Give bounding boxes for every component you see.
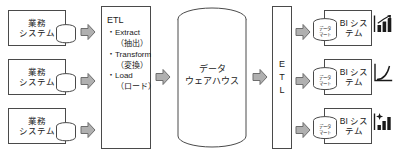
data-warehouse-label: データ ウェアハウス xyxy=(176,64,248,87)
bar-chart-trend-icon xyxy=(373,14,393,34)
source-database-cylinder-2 xyxy=(55,73,77,93)
data-mart-cylinder-3: データ マート xyxy=(312,116,338,140)
source-system-label-3-line1: 業務 xyxy=(19,116,55,126)
source-system-label-1-line2: システム xyxy=(19,28,55,38)
data-mart-cylinder-2: データ マート xyxy=(312,67,338,91)
source-system-label-2-line1: 業務 xyxy=(19,67,55,77)
arrow-etl2-to-mart-3 xyxy=(295,121,311,139)
etl-secondary-letter-3: L xyxy=(279,84,284,97)
arrow-etl2-to-mart-1 xyxy=(295,23,311,41)
line-chart-icon xyxy=(373,63,393,83)
arrow-etl2-to-mart-2 xyxy=(295,72,311,90)
etl-step-1-ja: （抽出） xyxy=(107,39,150,50)
arrow-source-3-to-etl xyxy=(80,121,96,139)
data-mart-cylinder-1: データ マート xyxy=(312,18,338,42)
source-database-cylinder-3 xyxy=(55,122,77,142)
data-warehouse-label-line2: ウェアハウス xyxy=(185,76,239,86)
etl-step-3-ja: （ロード） xyxy=(107,82,150,93)
etl-step-1-en: ・Extract xyxy=(107,28,150,39)
source-system-label-2-line2: システム xyxy=(19,77,55,87)
data-warehouse-label-line1: データ xyxy=(199,64,226,74)
etl-step-2-ja: （変換） xyxy=(107,61,150,72)
bi-system-label-3-line1: BI xyxy=(340,116,348,126)
arrow-source-1-to-etl xyxy=(80,23,96,41)
etl-secondary-letter-2: T xyxy=(279,71,285,84)
bar-chart-star-icon xyxy=(373,112,393,132)
source-database-cylinder-1 xyxy=(55,24,77,44)
etl-title: ETL xyxy=(107,14,150,26)
bi-system-label-2-line2: システム xyxy=(345,67,368,87)
source-system-label-3-line2: システム xyxy=(19,126,55,136)
etl-step-2-en: ・Transform xyxy=(107,50,150,61)
arrow-etl-to-warehouse xyxy=(155,68,171,86)
bi-system-label-1-line1: BI xyxy=(340,18,348,28)
arrow-warehouse-to-etl2 xyxy=(252,68,268,86)
etl-step-3-en: ・Load xyxy=(107,71,150,82)
etl-secondary-box: E T L xyxy=(272,6,292,149)
source-system-label-1-line1: 業務 xyxy=(19,18,55,28)
bi-system-label-3-line2: システム xyxy=(345,116,368,136)
etl-secondary-letter-1: E xyxy=(279,58,285,71)
arrow-source-2-to-etl xyxy=(80,72,96,90)
bi-system-label-1-line2: システム xyxy=(345,18,368,38)
data-warehouse-cylinder: データ ウェアハウス xyxy=(176,6,248,149)
bi-system-label-2-line1: BI xyxy=(340,67,348,77)
dwh-architecture-diagram: 業務 システム 業務 システム 業務 システム xyxy=(0,0,398,155)
etl-process-box: ETL ・Extract （抽出） ・Transform （変換） ・Load … xyxy=(101,6,151,149)
